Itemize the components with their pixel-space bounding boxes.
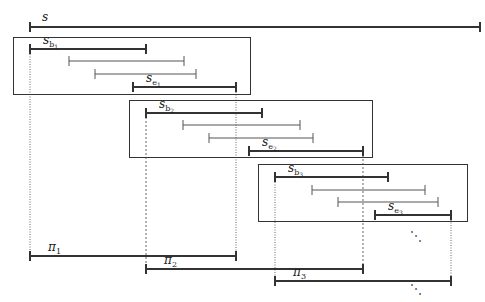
label-s: s	[42, 10, 48, 24]
label-s-b2: sb2	[159, 97, 174, 114]
segment-s-e3	[375, 210, 451, 220]
segment-block2-2	[209, 133, 313, 143]
segment-block1-1	[69, 56, 184, 66]
ellipsis-1: ⋱	[410, 282, 422, 296]
label-s-b3: sb3	[288, 161, 303, 178]
segment-s	[30, 22, 480, 32]
segment-block3-1	[312, 185, 425, 195]
segment-block2-1	[183, 120, 300, 130]
label-s-b1: sb1	[43, 33, 58, 50]
segment-pi-2	[146, 264, 363, 274]
segmentation-diagram: ssb1se1sb2se2sb3se3π1π2π3⋱⋱	[0, 0, 485, 302]
label-pi-1: π1	[47, 240, 61, 256]
ellipsis-0: ⋱	[410, 229, 422, 243]
label-pi-3: π3	[292, 265, 306, 281]
